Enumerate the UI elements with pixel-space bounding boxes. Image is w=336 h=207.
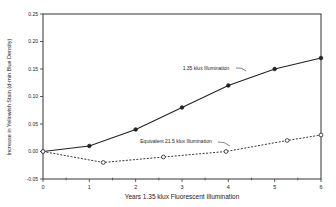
data-point <box>319 133 323 137</box>
y-tick-label: 0.25 <box>28 11 38 17</box>
data-point <box>273 67 277 71</box>
x-tick-label: 3 <box>180 184 183 190</box>
data-point <box>101 161 105 165</box>
annotation-solid-series: 1.35 klux Illumination <box>183 65 230 71</box>
y-tick-label: -0.05 <box>27 176 39 182</box>
series-layer <box>41 56 323 164</box>
data-point <box>41 150 45 154</box>
data-point <box>88 144 92 148</box>
y-axis-label: Increase in Yellowish Stain (d-min Blue … <box>6 39 12 156</box>
x-tick-label: 6 <box>319 184 322 190</box>
x-tick-label: 2 <box>134 184 137 190</box>
y-tick-label: 0.10 <box>28 93 38 99</box>
data-point <box>162 155 166 159</box>
y-tick-label: 0.15 <box>28 66 38 72</box>
data-point <box>134 128 138 132</box>
y-tick-label: 0.20 <box>28 38 38 44</box>
y-tick-label: 0.05 <box>28 121 38 127</box>
plot-area: -0.050.000.050.100.150.200.250123456 <box>27 11 323 190</box>
y-tick-label: 0.00 <box>28 148 38 154</box>
annotation-arrow-dashed <box>218 142 230 146</box>
chart: -0.050.000.050.100.150.200.250123456 Yea… <box>0 0 336 207</box>
data-point <box>285 139 289 143</box>
x-tick-label: 5 <box>273 184 276 190</box>
data-point <box>224 150 228 154</box>
data-point <box>227 84 231 88</box>
plot-frame <box>43 14 321 179</box>
annotation-arrow-solid <box>236 68 246 71</box>
x-tick-label: 1 <box>88 184 91 190</box>
x-tick-label: 4 <box>227 184 230 190</box>
data-point <box>180 106 184 110</box>
x-axis-label: Years 1.35 klux Fluorescent Illumination <box>125 193 240 200</box>
x-tick-label: 0 <box>41 184 44 190</box>
data-point <box>319 56 323 60</box>
annotation-dashed-series: Equivalent 21.5 klux Illumination <box>140 138 212 144</box>
